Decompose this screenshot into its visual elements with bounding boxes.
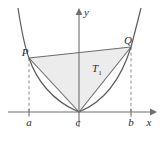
point-q-label: Q [124, 34, 132, 46]
tick-label-b: b [128, 116, 134, 128]
tick-label-c: c [76, 116, 81, 128]
figure-canvas: y x P Q T1 a c b [0, 0, 166, 141]
y-axis-arrow-icon [76, 8, 83, 15]
x-axis-label: x [146, 116, 152, 128]
point-p-label: P [21, 46, 29, 58]
x-axis-arrow-icon [150, 109, 157, 116]
parabola-figure: y x P Q T1 a c b [0, 0, 166, 141]
tick-label-a: a [26, 116, 32, 128]
region-t1-subscript: 1 [98, 69, 102, 77]
y-axis-label: y [83, 6, 89, 18]
